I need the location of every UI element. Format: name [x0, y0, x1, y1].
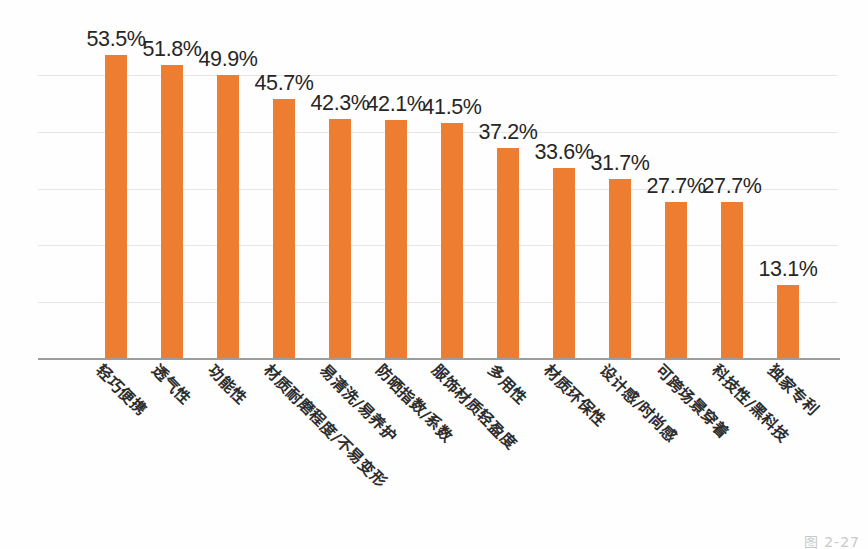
- bar-value-label: 31.7%: [577, 151, 663, 176]
- figure-caption: 图 2-27: [804, 531, 860, 549]
- bar-slot: [424, 18, 480, 359]
- bar[interactable]: [441, 123, 463, 359]
- bar-slot: [88, 18, 144, 359]
- bar[interactable]: [161, 65, 183, 359]
- bar-value-label: 41.5%: [409, 95, 495, 120]
- category-label: 独家专利: [764, 362, 821, 419]
- bar[interactable]: [497, 148, 519, 359]
- bar[interactable]: [609, 179, 631, 359]
- category-labels-group: 轻巧便携透气性功能性材质耐磨程度/不易变形易清洗/易养护防晒指数/系数服饰材质轻…: [38, 362, 840, 542]
- bar[interactable]: [329, 119, 351, 359]
- bar-value-label: 27.7%: [689, 174, 775, 199]
- category-label: 透气性: [148, 362, 193, 407]
- bar[interactable]: [217, 75, 239, 359]
- bar[interactable]: [105, 55, 127, 359]
- bar-slot: [312, 18, 368, 359]
- x-axis-line: [38, 358, 840, 360]
- bar-slot: [480, 18, 536, 359]
- bar[interactable]: [777, 285, 799, 359]
- bar[interactable]: [721, 202, 743, 359]
- bar-chart: 53.5%51.8%49.9%45.7%42.3%42.1%41.5%37.2%…: [0, 0, 868, 549]
- bar[interactable]: [385, 120, 407, 359]
- bar[interactable]: [553, 168, 575, 359]
- category-label: 多用性: [484, 362, 529, 407]
- bar-value-label: 13.1%: [745, 257, 831, 282]
- bar-slot: [368, 18, 424, 359]
- category-label: 轻巧便携: [92, 362, 149, 419]
- bar-slot: [536, 18, 592, 359]
- bar[interactable]: [665, 202, 687, 359]
- bar[interactable]: [273, 99, 295, 359]
- bar-value-label: 49.9%: [185, 47, 271, 72]
- category-label: 功能性: [204, 362, 249, 407]
